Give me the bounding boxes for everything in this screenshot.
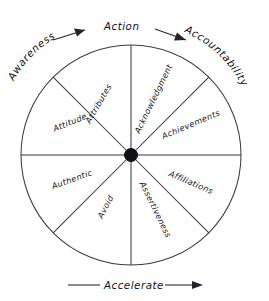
awareness-textpath-content: Awareness	[4, 29, 57, 83]
bottom-flow-group: Accelerate	[68, 279, 203, 291]
top-flow-group: Action	[53, 20, 186, 41]
hub	[125, 149, 138, 162]
action-left-arrowhead	[74, 29, 85, 37]
axis-label-action: Action	[103, 20, 139, 32]
axis-label-accelerate: Accelerate	[103, 279, 164, 291]
arc-label-awareness: Awareness	[4, 29, 57, 83]
accelerate-arrowhead	[192, 281, 203, 289]
wheel-canvas: Action Awareness Accountability	[0, 0, 269, 301]
action-wheel-diagram: Action Awareness Accountability	[0, 0, 269, 301]
